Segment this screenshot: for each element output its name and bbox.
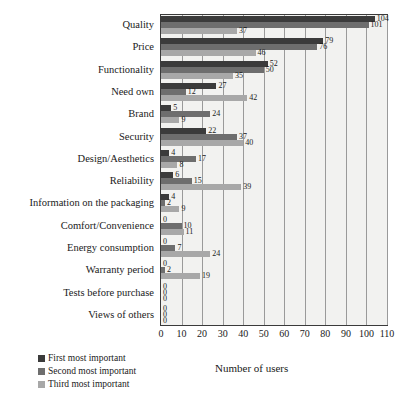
- bar: [161, 251, 210, 257]
- bar-group: 000: [161, 304, 387, 326]
- bar-value-label: 76: [319, 43, 327, 51]
- bar-value-label: 39: [243, 183, 251, 191]
- bar-value-label: 40: [245, 139, 253, 147]
- x-tick-label: 0: [159, 328, 164, 339]
- category-label: Need own: [111, 86, 154, 97]
- x-tick-label: 60: [279, 328, 289, 339]
- legend-swatch-icon: [38, 381, 45, 388]
- legend-label: First most important: [48, 353, 126, 363]
- bar-group: 000: [161, 281, 387, 303]
- x-axis-label: Number of users: [215, 362, 385, 374]
- bar-group: 01011: [161, 215, 387, 237]
- bar: [161, 162, 177, 168]
- x-tick-label: 50: [259, 328, 269, 339]
- x-tick-label: 70: [300, 328, 310, 339]
- bar-group: 0219: [161, 259, 387, 281]
- category-label: Tests before purchase: [63, 287, 154, 298]
- bar-value-label: 24: [212, 110, 220, 118]
- bar-value-label: 0: [163, 317, 167, 325]
- bar: [161, 229, 184, 235]
- legend-label: Second most important: [48, 366, 136, 376]
- bar-value-label: 50: [266, 66, 274, 74]
- category-label: Price: [132, 41, 154, 52]
- bar-group: 223740: [161, 125, 387, 147]
- bar-value-label: 4: [171, 193, 175, 201]
- category-label: Functionality: [98, 64, 154, 75]
- category-label: Comfort/Convenience: [61, 220, 154, 231]
- bar-group: 0724: [161, 237, 387, 259]
- category-label: Reliability: [110, 175, 154, 186]
- bar-group: 271242: [161, 81, 387, 103]
- category-label: Design/Aesthetics: [78, 153, 154, 164]
- bar-value-label: 35: [235, 72, 243, 80]
- legend-item: Third most important: [38, 378, 218, 390]
- bar-group: 4178: [161, 148, 387, 170]
- category-label: Energy consumption: [67, 242, 154, 253]
- x-tick-label: 40: [238, 328, 248, 339]
- category-label: Views of others: [88, 309, 154, 320]
- bar-chart: QualityPriceFunctionalityNeed ownBrandSe…: [0, 0, 405, 407]
- bar-value-label: 11: [186, 228, 194, 236]
- category-label: Brand: [128, 108, 154, 119]
- x-tick-label: 90: [341, 328, 351, 339]
- bar: [161, 184, 241, 190]
- bar-group: 10410137: [161, 14, 387, 36]
- bar-value-label: 37: [239, 27, 247, 35]
- bar: [161, 28, 237, 34]
- bar-value-label: 17: [198, 155, 206, 163]
- bar-value-label: 46: [258, 49, 266, 57]
- bar-value-label: 0: [163, 295, 167, 303]
- legend-swatch-icon: [38, 368, 45, 375]
- x-tick-label: 30: [218, 328, 228, 339]
- bar-group: 5249: [161, 103, 387, 125]
- bars-layer: 1041013779764652503527124252492237404178…: [160, 14, 388, 326]
- bar-value-label: 24: [212, 250, 220, 258]
- bar: [161, 206, 179, 212]
- x-tick-label: 100: [359, 328, 374, 339]
- bar: [161, 273, 200, 279]
- x-axis: 0102030405060708090100110: [160, 326, 388, 344]
- legend-item: Second most important: [38, 365, 218, 377]
- x-tick-label: 20: [197, 328, 207, 339]
- bar-value-label: 8: [179, 161, 183, 169]
- category-label: Quality: [123, 19, 155, 30]
- bar-group: 525035: [161, 59, 387, 81]
- category-label: Information on the packaging: [29, 197, 154, 208]
- bar-value-label: 101: [371, 21, 383, 29]
- legend: First most importantSecond most importan…: [38, 352, 218, 391]
- x-tick-label: 110: [380, 328, 395, 339]
- bar-group: 797646: [161, 36, 387, 58]
- bar: [161, 73, 233, 79]
- x-tick-label: 80: [320, 328, 330, 339]
- bar: [161, 95, 247, 101]
- bar-group: 429: [161, 192, 387, 214]
- bar: [161, 140, 243, 146]
- legend-swatch-icon: [38, 355, 45, 362]
- category-label: Security: [119, 131, 154, 142]
- bar-value-label: 42: [249, 94, 257, 102]
- x-tick-label: 10: [177, 328, 187, 339]
- legend-label: Third most important: [48, 379, 129, 389]
- category-axis: QualityPriceFunctionalityNeed ownBrandSe…: [0, 14, 158, 326]
- bar-value-label: 27: [218, 82, 226, 90]
- bar: [161, 117, 179, 123]
- category-label: Warranty period: [86, 264, 154, 275]
- bar: [161, 50, 256, 56]
- bar-group: 61539: [161, 170, 387, 192]
- bar-value-label: 19: [202, 272, 210, 280]
- bar-value-label: 9: [181, 205, 185, 213]
- legend-item: First most important: [38, 352, 218, 364]
- bar-value-label: 9: [181, 116, 185, 124]
